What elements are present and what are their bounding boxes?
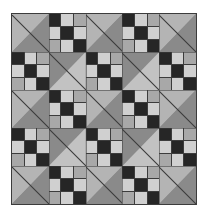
nine-patch-cell <box>12 128 24 140</box>
half-square-triangle-unit <box>86 14 123 52</box>
nine-patch-cell <box>25 141 37 153</box>
nine-patch-cell <box>135 166 147 178</box>
nine-patch-cell <box>184 65 196 77</box>
nine-patch-cell <box>159 141 171 153</box>
nine-patch-cell <box>86 141 98 153</box>
nine-patch-cell <box>25 78 37 90</box>
nine-patch-cell <box>135 14 147 26</box>
nine-patch-cell <box>74 166 86 178</box>
nine-patch-cell <box>122 40 134 52</box>
nine-patch-cell <box>184 128 196 140</box>
nine-patch-cell <box>74 116 86 128</box>
nine-patch-cell <box>86 128 98 140</box>
nine-patch-cell <box>148 14 160 26</box>
nine-patch-cell <box>135 40 147 52</box>
nine-patch-cell <box>122 192 134 204</box>
nine-patch-cell <box>122 116 134 128</box>
half-square-triangle-unit <box>49 128 86 166</box>
nine-patch-cell <box>148 40 160 52</box>
nine-patch-cell <box>111 52 123 64</box>
nine-patch-unit <box>12 128 49 166</box>
half-square-triangle-unit <box>86 90 123 128</box>
half-square-triangle-unit <box>12 166 49 204</box>
nine-patch-cell <box>86 52 98 64</box>
nine-patch-cell <box>172 65 184 77</box>
nine-patch-cell <box>135 90 147 102</box>
quilt-grid <box>12 14 196 204</box>
nine-patch-cell <box>25 154 37 166</box>
nine-patch-cell <box>159 78 171 90</box>
nine-patch-cell <box>49 14 61 26</box>
nine-patch-cell <box>25 65 37 77</box>
nine-patch-cell <box>74 179 86 191</box>
nine-patch-cell <box>148 192 160 204</box>
nine-patch-cell <box>172 141 184 153</box>
nine-patch-cell <box>111 141 123 153</box>
nine-patch-cell <box>172 128 184 140</box>
half-square-triangle-unit <box>12 14 49 52</box>
nine-patch-unit <box>159 128 196 166</box>
nine-patch-cell <box>37 141 49 153</box>
nine-patch-cell <box>49 192 61 204</box>
nine-patch-cell <box>159 52 171 64</box>
nine-patch-cell <box>25 52 37 64</box>
nine-patch-cell <box>37 154 49 166</box>
nine-patch-unit <box>122 166 159 204</box>
nine-patch-unit <box>86 52 123 90</box>
quilt-panel <box>11 13 197 205</box>
nine-patch-cell <box>74 14 86 26</box>
nine-patch-cell <box>148 116 160 128</box>
nine-patch-cell <box>122 14 134 26</box>
nine-patch-cell <box>37 65 49 77</box>
nine-patch-cell <box>122 179 134 191</box>
nine-patch-cell <box>135 179 147 191</box>
nine-patch-cell <box>159 65 171 77</box>
nine-patch-cell <box>159 128 171 140</box>
nine-patch-cell <box>98 65 110 77</box>
nine-patch-unit <box>49 14 86 52</box>
nine-patch-cell <box>25 128 37 140</box>
nine-patch-cell <box>61 40 73 52</box>
nine-patch-cell <box>98 128 110 140</box>
half-square-triangle-unit <box>122 52 159 90</box>
nine-patch-unit <box>159 52 196 90</box>
half-square-triangle-unit <box>159 90 196 128</box>
nine-patch-unit <box>86 128 123 166</box>
nine-patch-cell <box>74 27 86 39</box>
nine-patch-cell <box>184 52 196 64</box>
nine-patch-cell <box>12 141 24 153</box>
nine-patch-cell <box>61 166 73 178</box>
nine-patch-cell <box>12 65 24 77</box>
nine-patch-cell <box>74 103 86 115</box>
nine-patch-cell <box>86 78 98 90</box>
nine-patch-cell <box>12 52 24 64</box>
nine-patch-cell <box>148 103 160 115</box>
nine-patch-cell <box>49 40 61 52</box>
nine-patch-cell <box>98 52 110 64</box>
nine-patch-cell <box>148 27 160 39</box>
nine-patch-cell <box>184 141 196 153</box>
nine-patch-cell <box>61 90 73 102</box>
nine-patch-unit <box>49 90 86 128</box>
nine-patch-cell <box>111 128 123 140</box>
nine-patch-cell <box>86 154 98 166</box>
half-square-triangle-unit <box>122 128 159 166</box>
nine-patch-cell <box>122 103 134 115</box>
nine-patch-cell <box>61 116 73 128</box>
nine-patch-cell <box>148 90 160 102</box>
nine-patch-cell <box>135 27 147 39</box>
nine-patch-unit <box>122 90 159 128</box>
nine-patch-cell <box>61 27 73 39</box>
nine-patch-cell <box>111 78 123 90</box>
nine-patch-cell <box>49 116 61 128</box>
nine-patch-cell <box>74 192 86 204</box>
nine-patch-cell <box>61 14 73 26</box>
nine-patch-cell <box>172 154 184 166</box>
nine-patch-cell <box>172 78 184 90</box>
nine-patch-cell <box>135 116 147 128</box>
nine-patch-unit <box>12 52 49 90</box>
half-square-triangle-unit <box>159 166 196 204</box>
nine-patch-cell <box>74 90 86 102</box>
nine-patch-cell <box>12 78 24 90</box>
half-square-triangle-unit <box>12 90 49 128</box>
